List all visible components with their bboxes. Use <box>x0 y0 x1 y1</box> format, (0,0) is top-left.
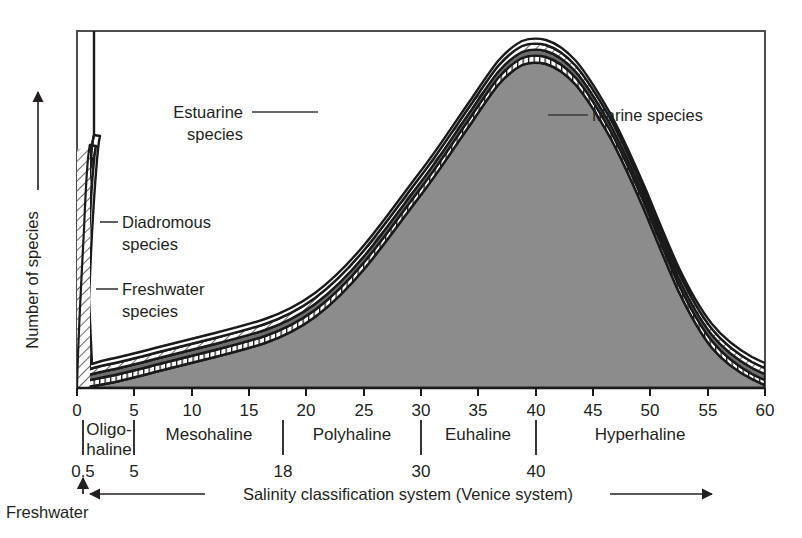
x-tick-label: 10 <box>183 401 202 420</box>
x-tick-label: 45 <box>584 401 603 420</box>
x-tick-label: 35 <box>469 401 488 420</box>
boundary-label-40: 40 <box>527 462 546 481</box>
boundary-label-5: 5 <box>129 462 138 481</box>
remane-diagram-figure: 0 5 10 15 20 25 30 35 40 45 50 55 60 Oli… <box>0 0 802 538</box>
x-tick-label: 60 <box>756 401 775 420</box>
diadromous-label-line2: species <box>122 235 178 253</box>
x-tick-label: 40 <box>527 401 546 420</box>
estuarine-label-line1: Estuarine <box>173 103 243 121</box>
zone-label-polyhaline: Polyhaline <box>313 425 391 444</box>
boundary-label-18: 18 <box>274 462 293 481</box>
freshwater-axis-label: Freshwater <box>6 503 89 521</box>
x-tick-label: 30 <box>412 401 431 420</box>
zone-label-hyperhaline: Hyperhaline <box>595 425 686 444</box>
y-axis-label: Number of species <box>23 211 41 349</box>
x-tick-label: 15 <box>240 401 259 420</box>
x-tick-label: 20 <box>297 401 316 420</box>
diadromous-label-line1: Diadromous <box>122 213 211 231</box>
freshwater-label-line1: Freshwater <box>122 280 205 298</box>
zone-label-mesohaline: Mesohaline <box>166 425 253 444</box>
marine-label: Marine species <box>592 106 703 124</box>
chart-svg: 0 5 10 15 20 25 30 35 40 45 50 55 60 Oli… <box>0 0 802 538</box>
x-tick-label: 25 <box>355 401 374 420</box>
x-tick-label: 0 <box>72 401 81 420</box>
freshwater-label-line2: species <box>122 302 178 320</box>
zone-label-euhaline: Euhaline <box>445 425 511 444</box>
x-tick-label: 5 <box>129 401 138 420</box>
zone-label-oligohaline-line2: haline <box>86 440 131 459</box>
salinity-axis-title: Salinity classification system (Venice s… <box>243 485 573 503</box>
zone-label-oligohaline-line1: Oligo- <box>86 420 131 439</box>
boundary-label-30: 30 <box>412 462 431 481</box>
estuarine-label-line2: species <box>187 125 243 143</box>
x-tick-label: 50 <box>641 401 660 420</box>
x-tick-label: 55 <box>699 401 718 420</box>
